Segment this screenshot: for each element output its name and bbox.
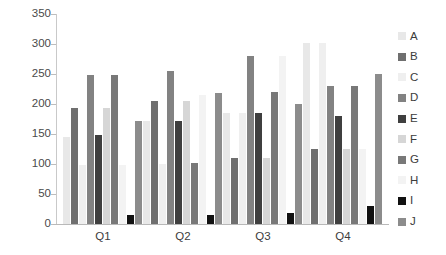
bar-group-q1 [63, 14, 142, 224]
bar-q2-e [175, 121, 182, 224]
legend-label-c: C [410, 72, 418, 84]
legend-label-g: G [410, 154, 419, 166]
legend-item-j[interactable]: J [398, 211, 446, 232]
bar-q2-d [167, 71, 174, 224]
bar-group-q4 [303, 14, 382, 224]
bar-q1-d [87, 75, 94, 224]
bar-q2-g [191, 163, 198, 224]
bar-q3-c [239, 113, 246, 224]
bar-q4-f [343, 149, 350, 224]
bar-q1-b [71, 108, 78, 224]
bar-q2-f [183, 101, 190, 224]
bar-q4-i [367, 206, 374, 224]
bar-q1-h [119, 165, 126, 224]
legend-label-i: I [410, 195, 413, 207]
bar-q3-i [287, 213, 294, 224]
bar-q2-a [143, 121, 150, 224]
legend-item-d[interactable]: D [398, 88, 446, 109]
bar-q2-b [151, 101, 158, 224]
legend-swatch-icon-b [398, 53, 406, 61]
legend-item-i[interactable]: I [398, 191, 446, 212]
bar-q1-a [63, 137, 70, 224]
x-axis-label-q3: Q3 [233, 229, 293, 244]
legend-swatch-icon-c [398, 73, 406, 81]
bar-q3-h [279, 56, 286, 224]
legend-label-d: D [410, 92, 418, 104]
legend-label-a: A [410, 31, 418, 43]
bar-q1-e [95, 135, 102, 224]
bar-chart: 050100150200250300350 ABCDEFGHIJ Q1Q2Q3Q… [0, 0, 446, 255]
legend-item-b[interactable]: B [398, 47, 446, 68]
legend-item-e[interactable]: E [398, 108, 446, 129]
bar-q2-h [199, 95, 206, 224]
bar-q3-f [263, 158, 270, 224]
bar-group-q2 [143, 14, 222, 224]
legend-label-e: E [410, 113, 418, 125]
bar-q3-b [231, 158, 238, 224]
bar-q1-i [127, 215, 134, 224]
legend-swatch-icon-e [398, 115, 406, 123]
bar-q4-c [319, 43, 326, 224]
bar-q4-g [351, 86, 358, 224]
bar-q2-c [159, 164, 166, 224]
x-axis-baseline [53, 224, 389, 225]
plot-area [57, 14, 387, 224]
bar-q1-f [103, 108, 110, 224]
y-axis: 050100150200250300350 [0, 0, 56, 255]
legend-swatch-icon-g [398, 156, 406, 164]
chart-legend: ABCDEFGHIJ [398, 26, 446, 232]
legend-item-f[interactable]: F [398, 129, 446, 150]
bar-q3-a [223, 113, 230, 224]
bar-q2-i [207, 215, 214, 224]
legend-item-h[interactable]: H [398, 170, 446, 191]
bar-q4-b [311, 149, 318, 224]
legend-swatch-icon-j [398, 218, 406, 226]
bar-q4-e [335, 116, 342, 224]
legend-swatch-icon-f [398, 135, 406, 143]
legend-label-b: B [410, 51, 418, 63]
x-axis-label-q4: Q4 [313, 229, 373, 244]
x-axis-label-q2: Q2 [153, 229, 213, 244]
legend-label-j: J [410, 216, 416, 228]
legend-item-c[interactable]: C [398, 67, 446, 88]
x-axis-label-q1: Q1 [73, 229, 133, 244]
legend-swatch-icon-a [398, 32, 406, 40]
bar-group-q3 [223, 14, 302, 224]
legend-swatch-icon-d [398, 94, 406, 102]
bar-q3-g [271, 92, 278, 224]
bar-q1-c [79, 165, 86, 224]
legend-swatch-icon-h [398, 176, 406, 184]
bar-q4-j [375, 74, 382, 224]
bar-q1-j [135, 121, 142, 224]
bar-q4-d [327, 86, 334, 224]
bar-q2-j [215, 93, 222, 224]
bar-q3-e [255, 113, 262, 224]
legend-item-g[interactable]: G [398, 150, 446, 171]
legend-label-f: F [410, 134, 417, 146]
bar-q3-d [247, 56, 254, 224]
legend-swatch-icon-i [398, 197, 406, 205]
legend-item-a[interactable]: A [398, 26, 446, 47]
bar-q4-a [303, 43, 310, 224]
bar-q3-j [295, 104, 302, 224]
bar-q4-h [359, 149, 366, 224]
legend-label-h: H [410, 175, 418, 187]
bar-q1-g [111, 75, 118, 224]
